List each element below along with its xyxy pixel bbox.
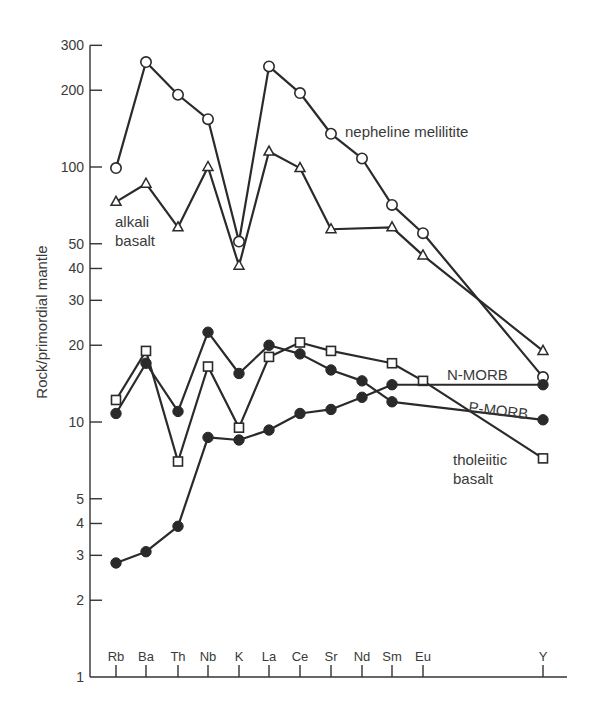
filled-circle-marker bbox=[295, 408, 305, 418]
x-tick-label: Rb bbox=[108, 649, 125, 664]
filled-circle-marker bbox=[357, 376, 367, 386]
open-square-marker bbox=[327, 346, 336, 355]
filled-circle-marker bbox=[538, 415, 548, 425]
open-circle-marker bbox=[173, 90, 183, 100]
y-tick-label: 50 bbox=[68, 236, 84, 252]
y-axis-title: Rock/primordial mantle bbox=[33, 245, 50, 398]
open-triangle-marker bbox=[203, 162, 213, 171]
filled-circle-marker bbox=[234, 435, 244, 445]
plot-area: 123451020304050100200300RbBaThNbKLaCeSrN… bbox=[0, 0, 603, 716]
x-tick-label: Nd bbox=[354, 649, 371, 664]
x-tick-label: Sr bbox=[325, 649, 339, 664]
y-tick-label: 40 bbox=[68, 260, 84, 276]
y-tick-label: 30 bbox=[68, 292, 84, 308]
filled-circle-marker bbox=[326, 404, 336, 414]
y-tick-label: 4 bbox=[76, 515, 84, 531]
y-tick-label: 10 bbox=[68, 414, 84, 430]
series-group bbox=[111, 57, 548, 568]
open-square-marker bbox=[174, 457, 183, 466]
y-tick-label: 3 bbox=[76, 547, 84, 563]
open-circle-marker bbox=[203, 114, 213, 124]
filled-circle-marker bbox=[203, 327, 213, 337]
y-tick-label: 300 bbox=[61, 37, 85, 53]
open-square-marker bbox=[204, 362, 213, 371]
filled-circle-marker bbox=[111, 408, 121, 418]
x-tick-label: Ba bbox=[138, 649, 155, 664]
filled-circle-marker bbox=[357, 392, 367, 402]
filled-circle-marker bbox=[387, 380, 397, 390]
open-circle-marker bbox=[234, 236, 244, 246]
x-tick-label: K bbox=[235, 649, 244, 664]
series-label: alkalibasalt bbox=[115, 213, 156, 249]
open-square-marker bbox=[539, 454, 548, 463]
filled-circle-marker bbox=[264, 340, 274, 350]
y-tick-label: 100 bbox=[61, 159, 85, 175]
open-square-marker bbox=[142, 346, 151, 355]
open-circle-marker bbox=[141, 57, 151, 67]
series-label: N-MORB bbox=[447, 366, 508, 383]
open-circle-marker bbox=[387, 200, 397, 210]
series-label: nepheline melilitite bbox=[345, 123, 468, 140]
filled-circle-marker bbox=[141, 547, 151, 557]
open-square-marker bbox=[296, 338, 305, 347]
series-labels: nepheline melilititealkalibasalttholeiit… bbox=[115, 123, 529, 487]
open-triangle-marker bbox=[264, 146, 274, 155]
y-tick-label: 1 bbox=[76, 669, 84, 685]
filled-circle-marker bbox=[234, 368, 244, 378]
open-circle-marker bbox=[326, 129, 336, 139]
filled-circle-marker bbox=[326, 365, 336, 375]
open-circle-marker bbox=[418, 228, 428, 238]
series-label: P-MORB bbox=[468, 398, 530, 422]
open-circle-marker bbox=[264, 61, 274, 71]
filled-circle-marker bbox=[173, 521, 183, 531]
series-nepheline-melilitite bbox=[111, 57, 548, 382]
filled-circle-marker bbox=[538, 380, 548, 390]
y-tick-label: 5 bbox=[76, 491, 84, 507]
x-tick-label: Sm bbox=[382, 649, 402, 664]
open-square-marker bbox=[265, 352, 274, 361]
x-tick-label: La bbox=[262, 649, 277, 664]
open-square-marker bbox=[235, 423, 244, 432]
filled-circle-marker bbox=[387, 397, 397, 407]
spider-diagram: 123451020304050100200300RbBaThNbKLaCeSrN… bbox=[0, 0, 603, 716]
x-tick-label: Th bbox=[170, 649, 185, 664]
open-circle-marker bbox=[111, 163, 121, 173]
open-triangle-marker bbox=[387, 222, 397, 231]
filled-circle-marker bbox=[203, 432, 213, 442]
y-tick-label: 20 bbox=[68, 337, 84, 353]
series-line bbox=[116, 152, 543, 351]
filled-circle-marker bbox=[173, 406, 183, 416]
y-tick-label: 200 bbox=[61, 82, 85, 98]
open-triangle-marker bbox=[234, 260, 244, 269]
filled-circle-marker bbox=[264, 425, 274, 435]
series-label: tholeiiticbasalt bbox=[453, 451, 508, 487]
filled-circle-marker bbox=[111, 558, 121, 568]
x-tick-label: Eu bbox=[415, 649, 431, 664]
x-tick-label: Y bbox=[539, 649, 548, 664]
open-triangle-marker bbox=[141, 178, 151, 187]
y-tick-label: 2 bbox=[76, 592, 84, 608]
filled-circle-marker bbox=[141, 358, 151, 368]
open-square-marker bbox=[388, 359, 397, 368]
series-line bbox=[116, 62, 543, 377]
open-circle-marker bbox=[295, 88, 305, 98]
x-tick-label: Nb bbox=[200, 649, 217, 664]
open-square-marker bbox=[112, 395, 121, 404]
open-circle-marker bbox=[357, 153, 367, 163]
x-tick-label: Ce bbox=[292, 649, 309, 664]
filled-circle-marker bbox=[295, 349, 305, 359]
series-alkali-basalt bbox=[111, 146, 548, 354]
